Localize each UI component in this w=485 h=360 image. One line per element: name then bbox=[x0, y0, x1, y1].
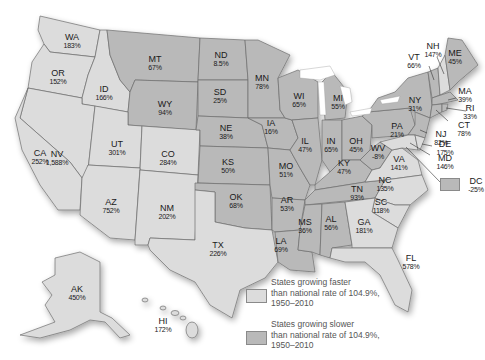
legend-item-faster: States growing faster than national rate… bbox=[246, 277, 426, 317]
state-KS bbox=[198, 146, 270, 185]
legend: States growing faster than national rate… bbox=[246, 277, 426, 360]
legend-slower-line2: than national rate of 104.9%, bbox=[271, 330, 380, 341]
state-AZ bbox=[80, 165, 140, 240]
state-AK bbox=[20, 252, 130, 338]
state-CO bbox=[140, 126, 200, 175]
legend-slower-line1: States growing slower bbox=[271, 319, 380, 330]
state-ND bbox=[198, 38, 248, 80]
state-SD bbox=[198, 80, 248, 118]
legend-slower-line3: 1950–2010 bbox=[271, 340, 380, 351]
state-ME bbox=[445, 38, 478, 90]
legend-swatch-faster bbox=[246, 289, 267, 303]
legend-faster-line1: States growing faster bbox=[271, 277, 380, 288]
legend-item-slower: States growing slower than national rate… bbox=[246, 319, 426, 359]
state-HI bbox=[142, 298, 198, 338]
dc-swatch bbox=[440, 178, 460, 191]
state-WY bbox=[128, 80, 198, 130]
legend-faster-line2: than national rate of 104.9%, bbox=[271, 288, 380, 299]
legend-faster-line3: 1950–2010 bbox=[271, 298, 380, 309]
state-CT bbox=[430, 104, 442, 118]
state-NM bbox=[135, 170, 198, 245]
state-AR bbox=[272, 198, 305, 232]
legend-swatch-slower bbox=[246, 331, 267, 345]
